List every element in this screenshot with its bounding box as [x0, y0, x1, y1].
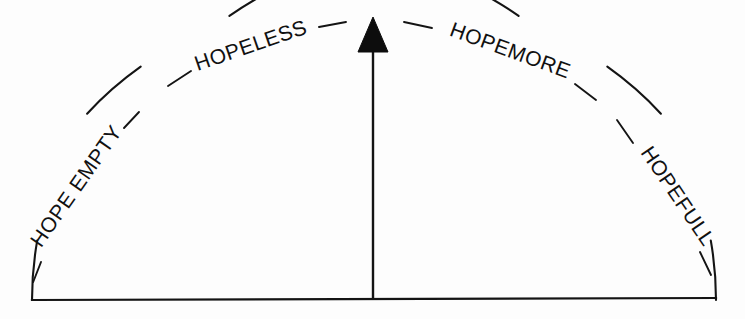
gauge-label-hopemore: HOPEMORE: [447, 18, 574, 83]
arc-segment-less-to-top: [229, 0, 374, 16]
arc-segment-left-end: [32, 241, 37, 300]
gauge-needle: [358, 17, 388, 299]
gauge-label-hopeless: HOPELESS: [191, 15, 309, 75]
hope-meter-diagram: HOPE EMPTY HOPELESS HOPEMORE HOPEFULL: [0, 0, 745, 319]
arc-segment-top-to-more: [374, 0, 519, 16]
needle-arrow-head-icon: [358, 17, 388, 52]
gauge-label-hopefull: HOPEFULL: [637, 142, 720, 250]
connector-tick-hope-empty-upper: [124, 112, 139, 128]
gauge-canvas: HOPE EMPTY HOPELESS HOPEMORE HOPEFULL: [0, 0, 745, 319]
connector-tick-hopeless-left: [168, 71, 191, 86]
arc-segment-more-to-full: [607, 67, 661, 114]
gauge-label-hope-empty: HOPE EMPTY: [26, 121, 127, 251]
connector-tick-hopemore-left: [404, 22, 432, 28]
connector-tick-hopeless-right: [319, 22, 346, 27]
connector-tick-hopemore-right: [575, 84, 596, 100]
connector-tick-hopefull-upper: [617, 120, 633, 143]
arc-segment-empty-to-less: [87, 67, 141, 114]
arc-segment-right-end: [711, 241, 716, 300]
connector-tick-hopefull-lower: [700, 252, 711, 275]
